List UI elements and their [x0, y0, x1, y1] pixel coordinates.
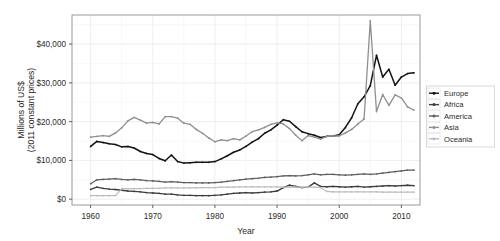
data-point — [270, 176, 272, 178]
data-point — [133, 188, 135, 190]
data-point — [195, 187, 197, 189]
data-point — [177, 117, 179, 119]
data-point — [314, 136, 316, 138]
data-point — [270, 129, 272, 131]
data-point — [251, 186, 253, 188]
data-point — [121, 127, 123, 129]
data-point — [202, 182, 204, 184]
data-point — [133, 117, 135, 119]
data-point — [233, 151, 235, 153]
data-point — [314, 134, 316, 136]
data-point — [183, 162, 185, 164]
data-point — [202, 195, 204, 197]
data-point — [177, 194, 179, 196]
data-point — [289, 184, 291, 186]
data-point — [376, 173, 378, 175]
data-point — [152, 180, 154, 182]
data-point — [413, 72, 415, 74]
data-point — [264, 191, 266, 193]
data-point — [401, 191, 403, 193]
data-point — [276, 190, 278, 192]
data-point — [351, 117, 353, 119]
data-point — [276, 186, 278, 188]
data-point — [332, 191, 334, 193]
data-point — [332, 186, 334, 188]
data-point — [121, 188, 123, 190]
data-point — [133, 179, 135, 181]
data-point — [214, 194, 216, 196]
data-point — [214, 141, 216, 143]
data-point — [189, 162, 191, 164]
data-point — [96, 141, 98, 143]
legend-key-marker-america — [433, 115, 436, 118]
data-point — [158, 158, 160, 160]
data-point — [146, 187, 148, 189]
data-point — [171, 116, 173, 118]
data-point — [413, 185, 415, 187]
data-point — [208, 187, 210, 189]
data-point — [189, 187, 191, 189]
data-point — [363, 118, 365, 120]
data-point — [295, 175, 297, 177]
data-point — [314, 182, 316, 184]
data-point — [407, 169, 409, 171]
data-point — [357, 186, 359, 188]
data-point — [301, 131, 303, 133]
data-point — [258, 129, 260, 131]
data-point — [314, 186, 316, 188]
y-axis-tick-label: $30,000 — [36, 79, 66, 88]
data-point — [158, 123, 160, 125]
data-point — [282, 175, 284, 177]
data-point — [127, 179, 129, 181]
data-point — [307, 186, 309, 188]
data-point — [227, 155, 229, 157]
data-point — [351, 174, 353, 176]
legend-label-america[interactable]: America — [444, 112, 473, 121]
legend-label-europe[interactable]: Europe — [444, 89, 469, 98]
data-point — [177, 161, 179, 163]
data-point — [208, 137, 210, 139]
data-point — [233, 193, 235, 195]
data-point — [171, 193, 173, 195]
data-point — [214, 182, 216, 184]
legend-label-oceania[interactable]: Oceania — [444, 135, 473, 144]
x-axis-tick-label: 1980 — [206, 212, 225, 221]
data-point — [146, 192, 148, 194]
data-point — [220, 194, 222, 196]
data-point — [245, 146, 247, 148]
data-point — [258, 138, 260, 140]
data-point — [189, 124, 191, 126]
data-point — [332, 135, 334, 137]
data-point — [202, 187, 204, 189]
data-point — [171, 187, 173, 189]
data-point — [239, 186, 241, 188]
data-point — [239, 139, 241, 141]
data-point — [345, 186, 347, 188]
data-point — [338, 174, 340, 176]
data-point — [369, 20, 371, 22]
data-point — [276, 176, 278, 178]
data-point — [363, 191, 365, 193]
x-axis-tick-label: 2010 — [392, 212, 411, 221]
data-point — [345, 174, 347, 176]
data-point — [183, 182, 185, 184]
data-point — [301, 175, 303, 177]
data-point — [189, 182, 191, 184]
legend-key-marker-asia — [433, 126, 436, 129]
data-point — [115, 132, 117, 134]
data-point — [108, 143, 110, 145]
data-point — [345, 132, 347, 134]
legend-label-africa[interactable]: Africa — [444, 100, 464, 109]
data-point — [394, 84, 396, 86]
data-point — [413, 191, 415, 193]
data-point — [363, 173, 365, 175]
data-point — [133, 191, 135, 193]
data-point — [270, 186, 272, 188]
data-point — [233, 138, 235, 140]
chart-container: $0$10,000$20,000$30,000$40,0001960197019… — [0, 0, 500, 241]
data-point — [376, 111, 378, 113]
data-point — [115, 195, 117, 197]
data-point — [214, 161, 216, 163]
legend-label-asia[interactable]: Asia — [444, 123, 460, 132]
data-point — [289, 175, 291, 177]
